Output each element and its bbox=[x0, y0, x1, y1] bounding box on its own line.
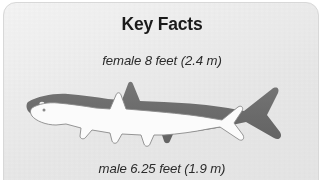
key-facts-card: Key Facts female 8 feet (2.4 m) bbox=[3, 2, 319, 180]
male-size-label: male 6.25 feet (1.9 m) bbox=[4, 161, 319, 176]
shark-size-comparison-illustration bbox=[4, 75, 319, 157]
page-title: Key Facts bbox=[4, 14, 319, 35]
screenshot-root: Key Facts female 8 feet (2.4 m) bbox=[0, 0, 324, 180]
female-size-label: female 8 feet (2.4 m) bbox=[4, 53, 319, 68]
male-shark-eye bbox=[43, 109, 46, 112]
